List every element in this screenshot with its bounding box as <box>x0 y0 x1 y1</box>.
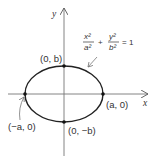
label-bottom-vertex: (0, −b) <box>68 125 96 136</box>
eq-num-x: x² <box>83 32 91 41</box>
eq-den-a: a² <box>84 43 91 52</box>
label-right-vertex: (a, 0) <box>106 99 128 110</box>
y-axis-label: y <box>51 9 57 19</box>
eq-den-b: b² <box>109 43 116 52</box>
pointer-equation-arrow <box>88 57 97 67</box>
point-bottom <box>62 120 66 124</box>
eq-num-y: y² <box>108 32 116 41</box>
point-top <box>62 64 66 68</box>
label-left-vertex: (−a, 0) <box>8 121 36 132</box>
eq-plus: + <box>98 38 103 47</box>
ellipse-diagram: y x (0, b) (a, 0) (−a, 0) (0, −b) x² a² … <box>0 0 160 159</box>
ellipse-equation: x² a² + y² b² = 1 <box>83 32 134 52</box>
pointer-left-arrow <box>20 97 25 120</box>
label-top-vertex: (0, b) <box>40 53 62 64</box>
point-left <box>23 92 27 96</box>
eq-rhs: = 1 <box>122 38 134 47</box>
point-right <box>101 92 105 96</box>
x-axis-label: x <box>142 98 148 108</box>
